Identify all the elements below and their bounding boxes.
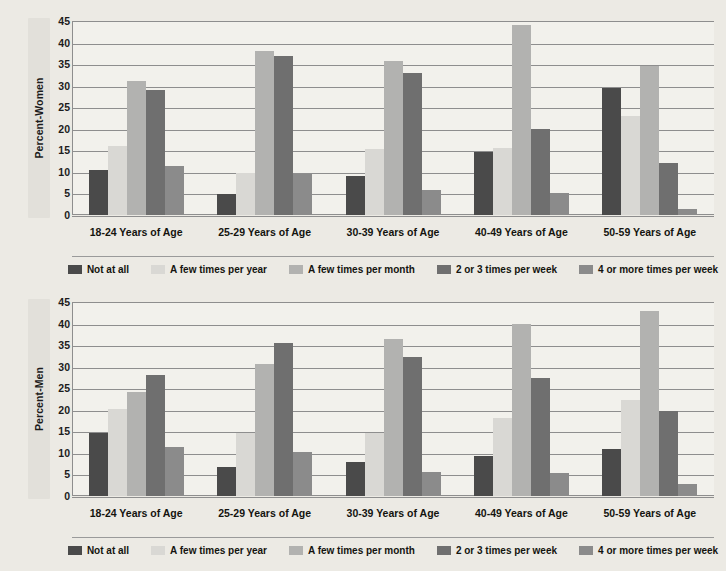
gridline [72, 44, 714, 45]
legend-label: 4 or more times per week [598, 545, 718, 556]
legend-swatch-icon [68, 546, 82, 555]
legend-swatch-icon [68, 265, 82, 274]
legend-swatch-icon [579, 265, 593, 274]
bar [236, 173, 255, 215]
y-axis-tick-label: 35 [58, 59, 70, 70]
legend-item[interactable]: A few times per month [289, 545, 415, 556]
y-axis-tick-label: 40 [58, 318, 70, 329]
bar [146, 90, 165, 215]
legend-swatch-icon [437, 546, 451, 555]
bar [659, 163, 678, 215]
legend-label: A few times per month [308, 264, 415, 275]
legend-label: A few times per month [308, 545, 415, 556]
bar [474, 152, 493, 215]
chart-panel-women: Percent-Women 051015202530354045 18-24 Y… [0, 0, 726, 286]
legend-item[interactable]: Not at all [68, 545, 129, 556]
y-axis-title-band-men: Percent-Men [28, 299, 50, 499]
plot-area-women [72, 21, 714, 215]
legend-label: 2 or 3 times per week [456, 264, 557, 275]
x-axis-category-labels-men: 18-24 Years of Age25-29 Years of Age30-3… [0, 507, 726, 523]
legend-swatch-icon [289, 265, 303, 274]
legend-item[interactable]: 2 or 3 times per week [437, 545, 557, 556]
bar [678, 484, 697, 496]
bar [274, 343, 293, 496]
bar-group-women [72, 22, 714, 215]
y-axis-line [72, 303, 73, 496]
legend-swatch-icon [579, 546, 593, 555]
bar [365, 149, 384, 215]
bar [165, 447, 184, 496]
bar [550, 193, 569, 215]
bar [146, 375, 165, 496]
gridline [72, 325, 714, 326]
y-axis-tick-label: 15 [58, 426, 70, 437]
legend-label: A few times per year [170, 264, 267, 275]
bar [236, 433, 255, 496]
bar [422, 472, 441, 496]
x-axis-category-label: 18-24 Years of Age [90, 507, 183, 519]
bar [165, 166, 184, 215]
bar [346, 462, 365, 496]
legend-item[interactable]: Not at all [68, 264, 129, 275]
legend-label: 2 or 3 times per week [456, 545, 557, 556]
y-axis-tick-label: 30 [58, 80, 70, 91]
legend-item[interactable]: A few times per year [151, 264, 267, 275]
bar [403, 73, 422, 215]
y-axis-tick-label: 45 [58, 16, 70, 27]
bar [293, 452, 312, 496]
legend-men: Not at allA few times per yearA few time… [72, 537, 714, 556]
bar [422, 190, 441, 215]
legend-item[interactable]: 4 or more times per week [579, 264, 718, 275]
legend-swatch-icon [289, 546, 303, 555]
bar [531, 378, 550, 496]
bar [403, 357, 422, 496]
y-axis-tick-label: 20 [58, 124, 70, 135]
gridline [72, 497, 714, 498]
y-axis-tick-label: 40 [58, 37, 70, 48]
y-axis-tick-label: 5 [64, 188, 70, 199]
bar [512, 324, 531, 496]
bar [659, 411, 678, 496]
y-axis-tick-label: 0 [64, 210, 70, 221]
legend-label: Not at all [87, 264, 129, 275]
bar [255, 364, 274, 496]
legend-label: 4 or more times per week [598, 264, 718, 275]
y-axis-title-men: Percent-Men [33, 367, 45, 431]
bar [493, 148, 512, 215]
legend-swatch-icon [151, 546, 165, 555]
y-axis-ticks-men: 051015202530354045 [44, 286, 70, 287]
x-axis-category-labels-women: 18-24 Years of Age25-29 Years of Age30-3… [0, 226, 726, 242]
bar [602, 449, 621, 496]
x-axis-category-label: 30-39 Years of Age [347, 507, 440, 519]
y-axis-ticks-women: 051015202530354045 [44, 0, 70, 1]
legend-item[interactable]: 2 or 3 times per week [437, 264, 557, 275]
bar [127, 392, 146, 496]
bar [384, 339, 403, 496]
legend-swatch-icon [151, 265, 165, 274]
legend-swatch-icon [437, 265, 451, 274]
bar [365, 433, 384, 496]
x-axis-category-label: 25-29 Years of Age [218, 507, 311, 519]
bar [474, 456, 493, 496]
bar [640, 66, 659, 215]
legend-item[interactable]: A few times per year [151, 545, 267, 556]
bar [293, 174, 312, 215]
y-axis-tick-label: 15 [58, 145, 70, 156]
gridline [72, 216, 714, 217]
bar [493, 418, 512, 496]
legend-item[interactable]: A few times per month [289, 264, 415, 275]
bar [127, 81, 146, 216]
x-axis-category-label: 25-29 Years of Age [218, 226, 311, 238]
y-axis-tick-label: 45 [58, 297, 70, 308]
legend-item[interactable]: 4 or more times per week [579, 545, 718, 556]
y-axis-tick-label: 5 [64, 469, 70, 480]
bar [89, 170, 108, 215]
y-axis-tick-label: 0 [64, 491, 70, 502]
x-axis-category-label: 50-59 Years of Age [603, 507, 696, 519]
x-axis-category-label: 40-49 Years of Age [475, 226, 568, 238]
plot-area-men [72, 302, 714, 496]
bar-group-men [72, 303, 714, 496]
x-axis-category-label: 50-59 Years of Age [603, 226, 696, 238]
y-axis-tick-label: 35 [58, 340, 70, 351]
bar [640, 311, 659, 496]
